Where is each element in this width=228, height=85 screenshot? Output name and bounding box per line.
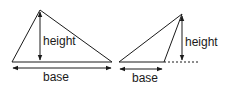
triangle-diagram: height base height base: [0, 0, 228, 85]
right-triangle-figure: height base: [119, 14, 218, 85]
obtuse-triangle-shape: [119, 14, 182, 62]
left-base-label: base: [43, 70, 69, 84]
left-height-label: height: [43, 34, 76, 48]
right-base-label: base: [132, 71, 158, 85]
right-height-label: height: [185, 35, 218, 49]
left-triangle-figure: height base: [12, 10, 112, 84]
